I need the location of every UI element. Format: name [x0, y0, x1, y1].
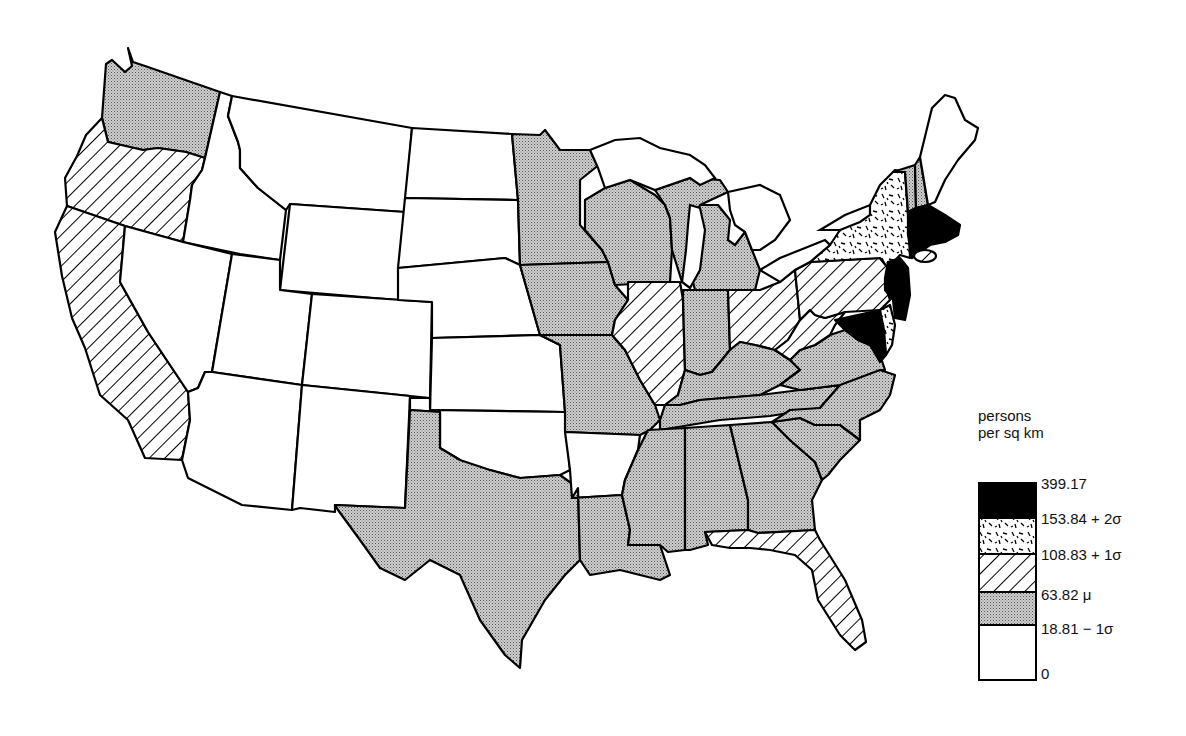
legend-label-c2: 63.82 μ	[1041, 586, 1091, 603]
state-wy	[280, 204, 405, 300]
state-ks	[430, 335, 565, 412]
swatch-stipple	[979, 592, 1036, 625]
legend-title-line2: per sq km	[978, 424, 1044, 441]
lake-superior	[590, 138, 715, 190]
legend-swatches	[978, 482, 1038, 642]
swatch-diagonal-hatch	[979, 554, 1036, 592]
state-co	[302, 294, 432, 398]
swatch-solid-black	[979, 483, 1036, 518]
legend-label-c1: 18.81 − 1σ	[1041, 620, 1113, 637]
legend-label-c5: 399.17	[1041, 475, 1087, 492]
legend-label-c3: 108.83 + 1σ	[1041, 546, 1122, 563]
legend-title-line1: persons	[978, 407, 1044, 424]
state-ma-ct-ri	[908, 205, 960, 258]
state-wa	[102, 48, 220, 158]
state-nd	[405, 128, 518, 200]
state-me	[920, 95, 978, 205]
swatch-white	[979, 625, 1036, 641]
legend-label-c0: 0	[1041, 665, 1049, 682]
state-nm	[292, 385, 410, 512]
state-fl	[705, 530, 866, 650]
state-az	[182, 372, 302, 510]
swatch-white-lower	[978, 640, 1038, 682]
long-island	[914, 250, 936, 262]
legend-label-c4: 153.84 + 2σ	[1041, 510, 1122, 527]
swatch-random-dash	[979, 518, 1036, 554]
legend: persons per sq km 399.17 153.84 + 2σ 108…	[978, 407, 1044, 441]
